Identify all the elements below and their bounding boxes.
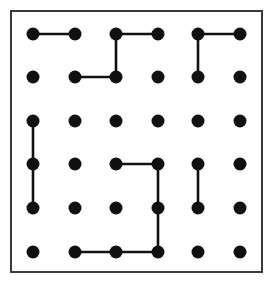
dot-r5c4[interactable] (152, 202, 165, 215)
outer-border (11, 11, 262, 272)
dot-r6c2[interactable] (69, 246, 82, 259)
dot-r1c6[interactable] (234, 28, 247, 41)
dot-r6c6[interactable] (234, 246, 247, 259)
dot-grid-figure (0, 0, 273, 284)
dot-r2c1[interactable] (27, 71, 40, 84)
dot-r4c3[interactable] (110, 158, 123, 171)
dot-r4c2[interactable] (69, 158, 82, 171)
dot-r3c6[interactable] (234, 115, 247, 128)
dot-r4c5[interactable] (192, 158, 205, 171)
dot-r4c4[interactable] (152, 158, 165, 171)
dot-r2c4[interactable] (152, 71, 165, 84)
dot-r6c3[interactable] (110, 246, 123, 259)
puzzle-canvas (0, 0, 273, 284)
dot-r5c2[interactable] (69, 202, 82, 215)
dot-r2c2[interactable] (69, 71, 82, 84)
dot-r3c3[interactable] (110, 115, 123, 128)
dot-r2c5[interactable] (192, 71, 205, 84)
dot-r5c6[interactable] (234, 202, 247, 215)
dot-r6c4[interactable] (152, 246, 165, 259)
dot-r6c5[interactable] (192, 246, 205, 259)
dot-r5c3[interactable] (110, 202, 123, 215)
dot-r3c5[interactable] (192, 115, 205, 128)
dot-r4c6[interactable] (234, 158, 247, 171)
dot-r5c5[interactable] (192, 202, 205, 215)
dot-r4c1[interactable] (27, 158, 40, 171)
dot-r1c3[interactable] (110, 28, 123, 41)
dot-r1c4[interactable] (152, 28, 165, 41)
dot-r1c5[interactable] (192, 28, 205, 41)
dot-r3c1[interactable] (27, 115, 40, 128)
dot-r2c3[interactable] (110, 71, 123, 84)
dot-r2c6[interactable] (234, 71, 247, 84)
dot-r3c2[interactable] (69, 115, 82, 128)
dot-r5c1[interactable] (27, 202, 40, 215)
dot-r6c1[interactable] (27, 246, 40, 259)
dot-r3c4[interactable] (152, 115, 165, 128)
dot-r1c1[interactable] (27, 28, 40, 41)
dot-r1c2[interactable] (69, 28, 82, 41)
